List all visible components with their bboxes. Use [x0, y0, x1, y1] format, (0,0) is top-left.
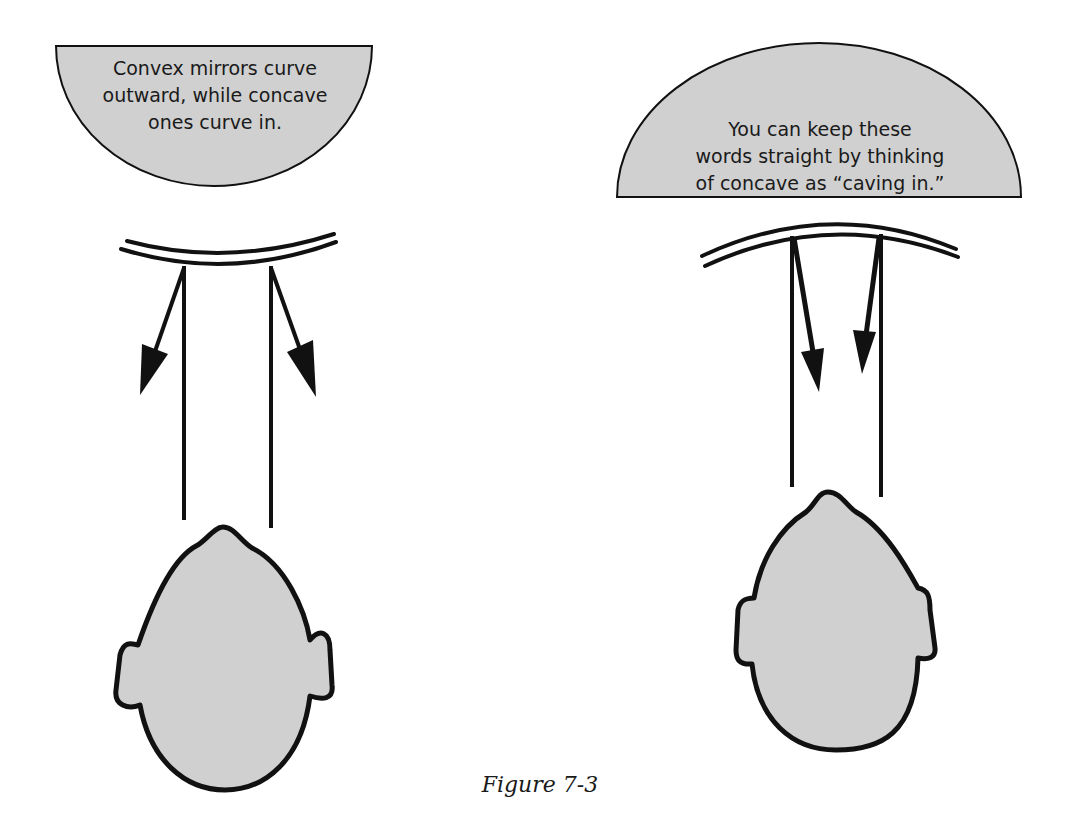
convex-incident-rays — [184, 266, 271, 528]
concave-head — [736, 492, 935, 750]
convex-callout-text: Convex mirrors curve outward, while conc… — [70, 55, 360, 136]
concave-callout-text: You can keep these words straight by thi… — [640, 116, 1000, 197]
arrow-left — [152, 268, 184, 360]
arrow-left — [794, 238, 813, 352]
arrowhead-left-icon — [140, 344, 168, 395]
concave-reflected-arrows — [794, 238, 879, 392]
arrow-right — [271, 268, 302, 355]
convex-mirror — [121, 234, 336, 264]
arrowhead-right-icon — [853, 330, 876, 374]
arrowhead-left-icon — [801, 348, 824, 392]
arrow-right — [866, 238, 879, 335]
callout-line: ones curve in. — [70, 109, 360, 136]
callout-line: outward, while concave — [70, 82, 360, 109]
convex-panel — [56, 46, 372, 790]
callout-line: words straight by thinking — [640, 143, 1000, 170]
concave-mirror — [702, 224, 958, 266]
convex-head — [116, 527, 332, 790]
figure-caption: Figure 7-3 — [440, 772, 640, 797]
callout-line: of concave as “caving in.” — [640, 170, 1000, 197]
convex-reflected-arrows — [140, 268, 316, 397]
callout-line: Convex mirrors curve — [70, 55, 360, 82]
arrowhead-right-icon — [287, 340, 316, 397]
callout-line: You can keep these — [640, 116, 1000, 143]
concave-incident-rays — [792, 234, 881, 497]
